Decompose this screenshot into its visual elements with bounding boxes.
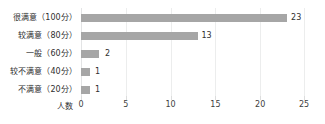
bar-value-label: 1 bbox=[95, 63, 100, 81]
bar-segment bbox=[81, 32, 198, 40]
x-tick-label: 10 bbox=[166, 100, 176, 109]
bar-value-label: 1 bbox=[95, 81, 100, 99]
bar-value-label: 13 bbox=[202, 27, 212, 45]
category-label: 一般（60分） bbox=[26, 45, 77, 63]
bar-row: 较不满意（40分） 1 bbox=[81, 63, 305, 81]
category-label: 不满意（20分） bbox=[18, 81, 77, 99]
x-tick-label: 20 bbox=[255, 100, 265, 109]
bar-segment bbox=[81, 68, 90, 76]
category-label: 较满意（80分） bbox=[18, 27, 77, 45]
bar-value-label: 23 bbox=[291, 9, 301, 27]
bar-chart: 很满意（100分） 23 较满意（80分） 13 一般（60分） 2 较不满意（… bbox=[0, 0, 325, 124]
bar-row: 一般（60分） 2 bbox=[81, 45, 305, 63]
plot-area: 很满意（100分） 23 较满意（80分） 13 一般（60分） 2 较不满意（… bbox=[81, 8, 305, 100]
bar-segment bbox=[81, 14, 287, 22]
x-axis-title: 人数 bbox=[0, 100, 73, 111]
bar-row: 不满意（20分） 1 bbox=[81, 81, 305, 99]
x-axis: 0 5 10 15 20 25 bbox=[81, 100, 305, 120]
x-tick-label: 15 bbox=[210, 100, 220, 109]
bar-row: 较满意（80分） 13 bbox=[81, 27, 305, 45]
bar-value-label: 2 bbox=[105, 45, 110, 63]
category-label: 很满意（100分） bbox=[13, 9, 77, 27]
category-label: 较不满意（40分） bbox=[10, 63, 77, 81]
x-tick-label: 25 bbox=[299, 100, 309, 109]
bar-row: 很满意（100分） 23 bbox=[81, 9, 305, 27]
bar-segment bbox=[81, 86, 90, 94]
x-tick-label: 0 bbox=[78, 100, 83, 109]
bar-segment bbox=[81, 50, 99, 58]
x-tick-label: 5 bbox=[123, 100, 128, 109]
